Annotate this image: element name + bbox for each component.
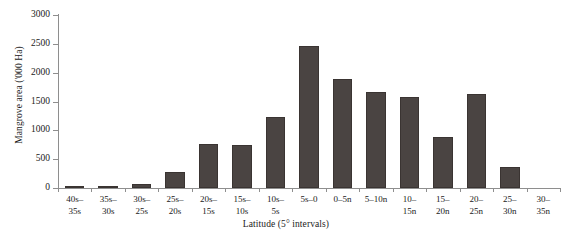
bar — [500, 167, 519, 188]
y-axis-title: Mangrove area ('000 Ha) — [10, 0, 28, 190]
y-axis-tick-label: 1000 — [31, 123, 50, 136]
y-axis-tick-mark — [53, 15, 58, 16]
x-axis-tick-mark — [158, 188, 159, 192]
x-axis-tick-label: 20– 25n — [460, 194, 493, 217]
y-axis-tick-mark — [53, 44, 58, 45]
x-axis-tick-label: 20s– 15s — [192, 194, 225, 217]
bar — [199, 144, 218, 188]
x-axis-tick-label: 30s– 25s — [125, 194, 158, 217]
x-axis-tick-mark — [460, 188, 461, 192]
x-axis-tick-mark — [326, 188, 327, 192]
x-axis-tick-mark — [426, 188, 427, 192]
x-axis-tick-label: 5s–0 — [292, 194, 325, 206]
x-axis-tick-label: 10s– 5s — [259, 194, 292, 217]
x-axis-tick-mark — [493, 188, 494, 192]
x-axis-tick-mark — [91, 188, 92, 192]
y-axis-tick-label: 500 — [36, 152, 50, 165]
x-axis-tick-mark — [192, 188, 193, 192]
mangrove-area-bar-chart: Mangrove area ('000 Ha) 0500100015002000… — [0, 0, 572, 236]
x-axis-tick-label: 10– 15n — [393, 194, 426, 217]
x-axis-tick-mark — [225, 188, 226, 192]
y-axis-tick-label: 3000 — [31, 8, 50, 21]
y-axis-tick-label: 2000 — [31, 66, 50, 79]
y-axis-tick-mark — [53, 102, 58, 103]
bar — [467, 94, 486, 188]
x-axis-tick-label: 15s– 10s — [225, 194, 258, 217]
bar — [165, 172, 184, 188]
bar — [98, 186, 117, 188]
y-axis-tick-mark — [53, 130, 58, 131]
x-axis-tick-label: 25s– 20s — [158, 194, 191, 217]
x-axis-tick-mark — [125, 188, 126, 192]
bar — [266, 117, 285, 189]
plot-area: 050010001500200025003000 — [58, 15, 560, 188]
bar — [400, 97, 419, 188]
x-axis-tick-mark — [527, 188, 528, 192]
bar — [65, 186, 84, 188]
y-axis-tick-label: 0 — [45, 181, 50, 194]
x-axis-tick-label: 5–10n — [359, 194, 392, 206]
x-axis-tick-label: 15– 20n — [426, 194, 459, 217]
y-axis-tick-label: 2500 — [31, 37, 50, 50]
x-axis-tick-mark — [393, 188, 394, 192]
x-axis-tick-label: 30– 35n — [527, 194, 560, 217]
bar — [333, 79, 352, 188]
x-axis-tick-mark — [560, 188, 561, 192]
x-axis-tick-label: 0–5n — [326, 194, 359, 206]
bar — [132, 184, 151, 188]
x-axis-tick-label: 35s– 30s — [91, 194, 124, 217]
bar — [232, 145, 251, 188]
y-axis-tick-label: 1500 — [31, 95, 50, 108]
bar — [299, 46, 318, 188]
x-axis-tick-label: 40s– 35s — [58, 194, 91, 217]
bar — [366, 92, 385, 188]
x-axis-tick-mark — [259, 188, 260, 192]
y-axis-tick-mark — [53, 159, 58, 160]
x-axis-tick-label: 25– 30n — [493, 194, 526, 217]
x-axis-line — [58, 188, 561, 189]
bar — [433, 137, 452, 188]
y-axis-tick-mark — [53, 73, 58, 74]
x-axis-title: Latitude (5° intervals) — [0, 219, 572, 229]
x-axis-tick-mark — [292, 188, 293, 192]
x-axis-tick-mark — [359, 188, 360, 192]
x-axis-tick-mark — [58, 188, 59, 192]
